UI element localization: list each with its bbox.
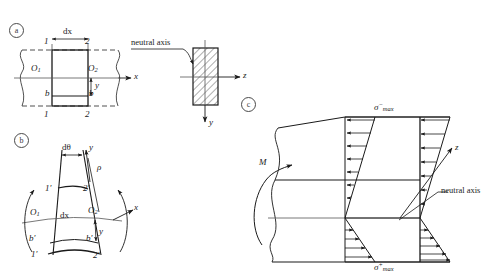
panel-b-top-right-corner: 2′ <box>83 184 89 193</box>
panel-b-origin-right-sub: 2 <box>95 208 98 215</box>
panel-c-sigma-bottom: σ+max <box>374 262 394 273</box>
panel-b-origin-right: O2 <box>88 206 98 216</box>
panel-b-origin-left: O1 <box>30 208 40 218</box>
panel-a-origin-right-sub: 2 <box>95 66 98 73</box>
panel-a-section-z-label: z <box>243 71 247 80</box>
panel-a-corner-bottom-right: 2 <box>85 110 90 119</box>
panel-a-corner-top-left: 1 <box>44 37 49 46</box>
panel-a-corner-bottom-left: 1 <box>44 110 49 119</box>
panel-b-bottom-right-corner: 2′ <box>93 251 99 260</box>
panel-b-fiber-left: b′ <box>29 234 35 243</box>
panel-b-origin-left-sub: 1 <box>37 210 40 217</box>
panel-b-rho-label: ρ <box>97 163 101 172</box>
panel-b-x-axis-label: x <box>134 203 138 212</box>
panel-a-corner-top-right: 2 <box>85 37 90 46</box>
panel-tag-c: c <box>241 97 256 112</box>
panel-a-fiber-left: b <box>45 89 50 98</box>
panel-a-dx-label: dx <box>63 27 72 36</box>
panel-c-geometry <box>254 117 452 262</box>
panel-b-y-label: y <box>99 227 103 236</box>
panel-b-dtheta-label: dθ <box>62 143 71 152</box>
panel-b-bottom-left-corner: 1′ <box>31 250 37 259</box>
panel-a-origin-left-sub: 1 <box>38 66 41 73</box>
panel-tag-b: b <box>14 133 29 148</box>
panel-b-fiber-right: b′ <box>86 234 92 243</box>
panel-a-y-label: y <box>95 81 99 90</box>
panel-a-neutral-axis-label: neutral axis <box>131 38 170 47</box>
panel-a-x-axis-label: x <box>134 72 138 81</box>
figure-root: a b c dx 1 2 1 2 O1 O2 b b y x neutral a… <box>0 0 497 280</box>
panel-a-section-y-label: y <box>209 118 213 127</box>
panel-b-dx-label: dx <box>60 211 69 220</box>
panel-tag-a: a <box>9 23 24 38</box>
panel-a-fiber-right: b <box>89 89 94 98</box>
panel-a-origin-right: O2 <box>88 64 98 74</box>
panel-c-z-axis-label: z <box>455 143 459 152</box>
panel-a-origin-left: O1 <box>31 64 41 74</box>
panel-c-neutral-axis-label: neutral axis <box>441 186 480 195</box>
panel-c-sigma-bottom-subscript: max <box>383 265 394 272</box>
panel-c-moment-label: M <box>259 158 267 167</box>
panel-b-geometry <box>22 150 133 255</box>
panel-c-sigma-top-subscript: max <box>383 105 394 112</box>
panel-b-y-top-label: y <box>89 143 93 152</box>
panel-c-sigma-top: σ−max <box>374 102 394 113</box>
panel-b-top-left-corner: 1′ <box>45 184 51 193</box>
figure-vector-layer <box>0 0 497 280</box>
